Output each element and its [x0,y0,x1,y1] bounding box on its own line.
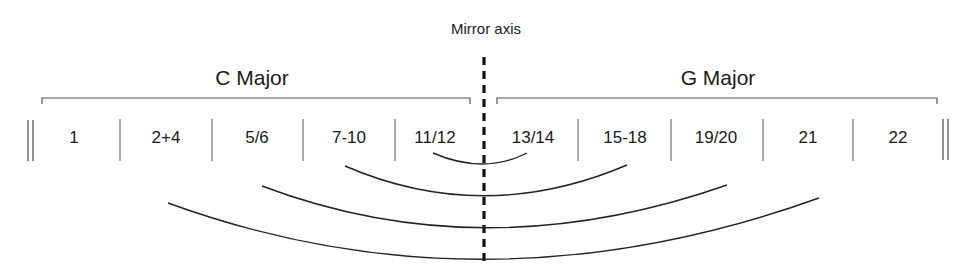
cell-label: 11/12 [414,128,455,148]
cell-label: 21 [799,128,818,148]
arc-11-12-to-13-14 [433,153,527,164]
arc-5-6-to-19-20 [262,185,727,228]
c-major-label: C Major [215,66,289,90]
right-double-barline [943,119,948,160]
cell-label: 7-10 [332,128,366,148]
cell-label: 5/6 [245,128,269,148]
c-major-bracket [42,98,470,104]
arc-2-4-to-21 [168,198,819,259]
cell-label: 13/14 [512,128,555,148]
g-major-label: G Major [681,66,756,90]
cell-label: 1 [69,128,78,148]
cell-dividers [120,119,853,161]
cell-label: 22 [889,128,908,148]
cell-label: 2+4 [152,128,181,148]
diagram-canvas [0,0,974,275]
g-major-bracket [497,98,937,104]
mirror-axis-label: Mirror axis [451,20,521,37]
left-double-barline [28,120,33,161]
cell-label: 15-18 [603,128,646,148]
mirror-arcs [168,153,819,259]
arc-7-10-to-15-18 [345,165,627,196]
cell-label: 19/20 [695,128,738,148]
